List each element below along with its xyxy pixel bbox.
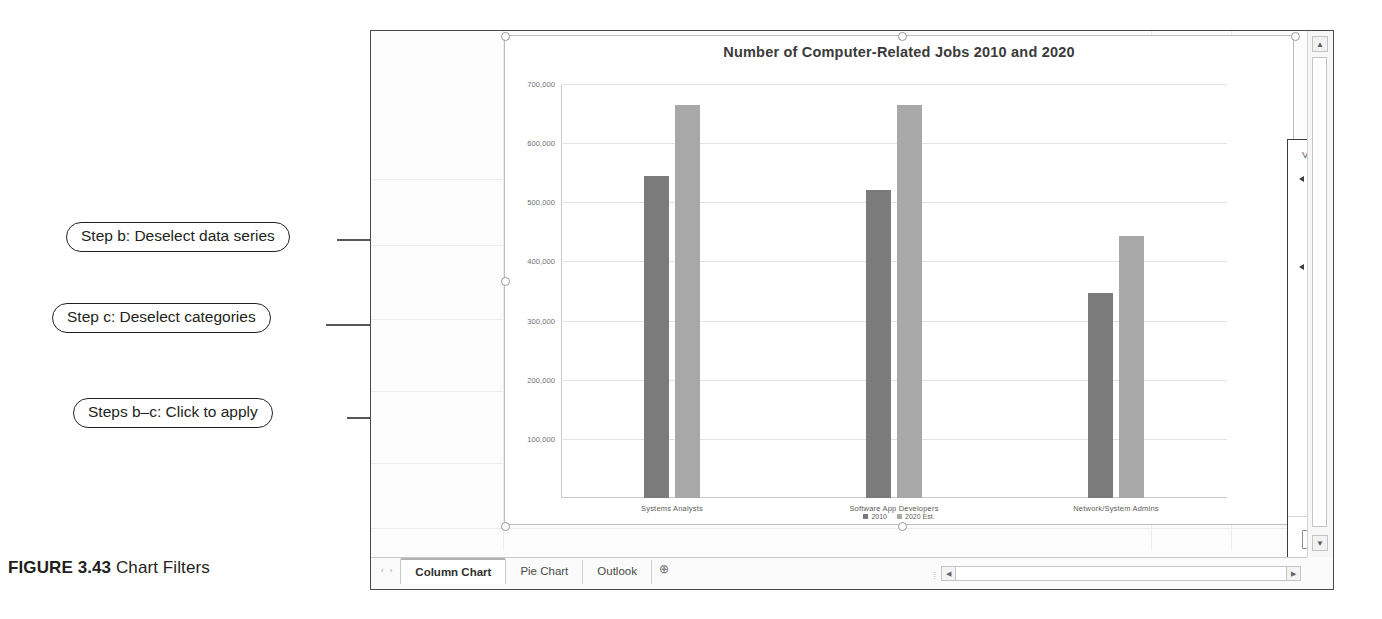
sheet-nav-prev-icon[interactable]: ‹ [381, 566, 384, 575]
y-axis-tick-label: 200,000 [527, 375, 555, 384]
legend-swatch [897, 514, 902, 519]
excel-window: Number of Computer-Related Jobs 2010 and… [370, 30, 1334, 590]
filter-row[interactable]: (Select All) [1288, 274, 1307, 292]
bar-2010-1[interactable] [866, 190, 891, 498]
filter-row[interactable]: Database Administrators [1288, 400, 1307, 418]
filter-list-content: SERIES(Select All)20102020 Est.# of New … [1288, 170, 1307, 418]
legend-item: 2020 Est. [897, 513, 935, 520]
bar-2020Est-0[interactable] [675, 105, 700, 498]
x-axis-label: Systems Analysts [641, 504, 703, 513]
filter-row[interactable]: CIS Managers [1288, 364, 1307, 382]
worksheet-area[interactable]: Number of Computer-Related Jobs 2010 and… [371, 31, 1307, 557]
selection-handle-sw[interactable] [501, 522, 510, 531]
x-axis-label: Software App Developers [849, 504, 938, 513]
chart-title: Number of Computer-Related Jobs 2010 and… [505, 44, 1293, 60]
filter-row[interactable]: (Select All) [1288, 186, 1307, 204]
horizontal-scrollbar[interactable]: ◀ ▶ [941, 566, 1301, 581]
legend-label: 2020 Est. [905, 513, 935, 520]
hscroll-track[interactable] [956, 566, 1286, 581]
filter-tab-values[interactable]: VALUES [1302, 149, 1307, 160]
hscroll-left-arrow-icon[interactable]: ◀ [941, 566, 956, 581]
filter-panel-footer: Apply Select Data... [1288, 516, 1307, 557]
filter-panel-tabs: VALUES NAMES [1288, 140, 1307, 166]
callout-steps-bc: Steps b–c: Click to apply [73, 398, 273, 428]
selection-handle-ne[interactable] [1291, 32, 1300, 41]
selection-handle-s[interactable] [898, 522, 907, 531]
sheet-tabs: Column ChartPie ChartOutlook [400, 558, 652, 584]
callout-step-c: Step c: Deselect categories [52, 303, 271, 333]
filter-row[interactable]: Software App Devel... [1288, 310, 1307, 328]
bar-2020Est-1[interactable] [897, 105, 922, 498]
y-axis-tick-label: 400,000 [527, 257, 555, 266]
apply-button[interactable]: Apply [1302, 530, 1307, 549]
sheet-tab-column-chart[interactable]: Column Chart [400, 558, 506, 584]
filter-group-series[interactable]: SERIES [1288, 170, 1307, 186]
filter-row[interactable]: Network/System Ad... [1288, 346, 1307, 364]
figure-number: FIGURE 3.43 [8, 558, 111, 577]
vscroll-thumb[interactable] [1312, 57, 1327, 527]
filter-list[interactable]: SERIES(Select All)20102020 Est.# of New … [1288, 170, 1307, 516]
filter-row[interactable]: Systems Analysts [1288, 292, 1307, 310]
sheet-nav-next-icon[interactable]: › [390, 566, 393, 575]
vertical-scrollbar[interactable]: ▲ ▼ [1307, 31, 1333, 557]
legend-label: 2010 [871, 513, 887, 520]
sheet-tab-pie-chart[interactable]: Pie Chart [506, 560, 583, 584]
sheet-tab-outlook[interactable]: Outlook [583, 560, 652, 584]
collapse-triangle-icon[interactable] [1299, 176, 1304, 182]
bar-2010-0[interactable] [644, 176, 669, 498]
split-handle[interactable]: ⁞ [933, 571, 935, 581]
x-axis-label: Network/System Admins [1073, 504, 1158, 513]
chart-object[interactable]: Number of Computer-Related Jobs 2010 and… [504, 35, 1294, 525]
filter-row[interactable]: # of New Jobs [1288, 240, 1307, 258]
legend-item: 2010 [863, 513, 887, 520]
figure-page: Step b: Deselect data series Step c: Des… [0, 0, 1382, 619]
y-axis-tick-label: 600,000 [527, 139, 555, 148]
filter-row[interactable]: Programmers [1288, 328, 1307, 346]
vscroll-down-arrow-icon[interactable]: ▼ [1312, 535, 1328, 551]
vscroll-up-arrow-icon[interactable]: ▲ [1312, 36, 1328, 52]
hscroll-right-arrow-icon[interactable]: ▶ [1286, 566, 1301, 581]
selection-handle-w[interactable] [501, 277, 510, 286]
figure-caption: FIGURE 3.43 Chart Filters [8, 558, 210, 578]
selection-handle-nw[interactable] [501, 32, 510, 41]
collapse-triangle-icon[interactable] [1299, 264, 1304, 270]
gridline [561, 143, 1227, 144]
filter-row[interactable]: 2010 [1288, 204, 1307, 222]
new-sheet-button[interactable]: ⊕ [652, 558, 676, 576]
filter-row[interactable]: 2020 Est. [1288, 222, 1307, 240]
bar-2020Est-2[interactable] [1119, 236, 1144, 498]
gridline [561, 84, 1227, 85]
legend-swatch [863, 514, 868, 519]
sheet-nav-buttons: ‹ › [371, 558, 400, 575]
filter-row[interactable]: Info Security Analysts [1288, 382, 1307, 400]
y-axis-tick-label: 500,000 [527, 198, 555, 207]
chart-legend: 20102020 Est. [505, 513, 1293, 520]
chart-filters-panel[interactable]: VALUES NAMES SERIES(Select All)20102020 … [1287, 139, 1307, 557]
y-axis-line [561, 84, 562, 498]
sheet-tab-bar: ‹ › Column ChartPie ChartOutlook ⊕ ⁞ ◀ ▶ [371, 557, 1307, 589]
plot-area: 100,000200,000300,000400,000500,000600,0… [561, 84, 1227, 498]
y-axis-tick-label: 700,000 [527, 80, 555, 89]
y-axis-tick-label: 300,000 [527, 316, 555, 325]
selection-handle-n[interactable] [898, 32, 907, 41]
figure-title: Chart Filters [116, 558, 210, 577]
bar-2010-2[interactable] [1088, 293, 1113, 498]
callout-step-b: Step b: Deselect data series [66, 222, 290, 252]
filter-group-categories[interactable]: CATEGORIES [1288, 258, 1307, 274]
y-axis-tick-label: 100,000 [527, 434, 555, 443]
